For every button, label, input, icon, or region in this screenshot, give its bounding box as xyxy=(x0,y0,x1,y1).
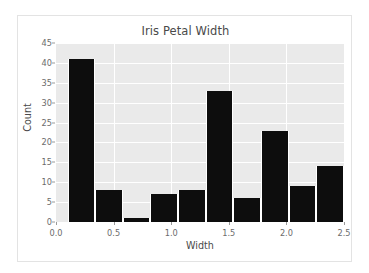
gridline-vertical xyxy=(344,43,345,222)
gridline-horizontal xyxy=(56,83,344,84)
x-tick-mark xyxy=(229,222,230,225)
gridline-horizontal xyxy=(56,123,344,124)
x-tick-label: 1.5 xyxy=(209,228,249,238)
x-tick-label: 2.0 xyxy=(266,228,306,238)
y-tick-label: 0 xyxy=(22,217,52,227)
x-axis-label: Width xyxy=(56,240,344,251)
y-axis-label: Count xyxy=(22,88,33,148)
x-tick-label: 0.5 xyxy=(94,228,134,238)
y-tick-label: 15 xyxy=(22,157,52,167)
y-tick-mark xyxy=(52,43,55,44)
x-tick-mark xyxy=(56,222,57,225)
y-tick-label: 5 xyxy=(22,197,52,207)
y-tick-mark xyxy=(52,162,55,163)
gridline-horizontal xyxy=(56,162,344,163)
y-tick-mark xyxy=(52,222,55,223)
histogram-bar xyxy=(206,91,234,222)
y-tick-label: 40 xyxy=(22,58,52,68)
x-tick-mark xyxy=(171,222,172,225)
y-tick-mark xyxy=(52,202,55,203)
gridline-horizontal xyxy=(56,182,344,183)
y-tick-label: 45 xyxy=(22,38,52,48)
histogram-bar xyxy=(178,190,206,222)
chart-figure: Iris Petal Width 051015202530354045 0.00… xyxy=(17,15,352,262)
y-tick-mark xyxy=(52,142,55,143)
gridline-horizontal xyxy=(56,103,344,104)
y-tick-label: 35 xyxy=(22,78,52,88)
histogram-bar xyxy=(150,194,178,222)
x-tick-mark xyxy=(344,222,345,225)
x-tick-label: 0.0 xyxy=(36,228,76,238)
x-tick-mark xyxy=(286,222,287,225)
histogram-bar xyxy=(261,131,289,222)
y-tick-mark xyxy=(52,102,55,103)
histogram-bar xyxy=(316,166,344,222)
histogram-bar xyxy=(233,198,261,222)
histogram-bar xyxy=(95,190,123,222)
y-tick-label: 10 xyxy=(22,177,52,187)
histogram-bar xyxy=(289,186,317,222)
chart-title: Iris Petal Width xyxy=(18,24,353,38)
gridline-horizontal xyxy=(56,63,344,64)
y-tick-mark xyxy=(52,182,55,183)
x-tick-label: 1.0 xyxy=(151,228,191,238)
x-tick-label: 2.5 xyxy=(324,228,364,238)
gridline-horizontal xyxy=(56,43,344,44)
y-tick-mark xyxy=(52,82,55,83)
y-tick-mark xyxy=(52,122,55,123)
gridline-horizontal xyxy=(56,142,344,143)
plot-area xyxy=(56,43,344,222)
y-tick-mark xyxy=(52,62,55,63)
x-tick-mark xyxy=(114,222,115,225)
histogram-bar xyxy=(68,59,96,222)
